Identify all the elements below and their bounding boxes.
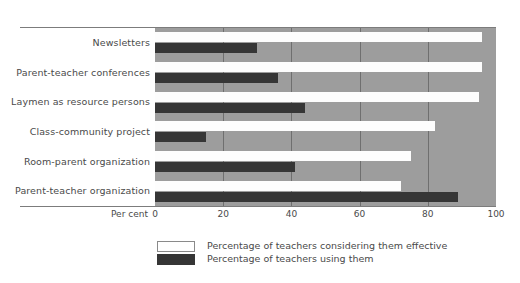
bar — [155, 32, 482, 42]
category-label: Parent-teacher conferences — [0, 67, 150, 78]
legend-label: Percentage of teachers considering them … — [207, 240, 447, 251]
x-axis-label: Per cent — [111, 209, 148, 219]
gridline-40 — [291, 28, 292, 206]
bar — [155, 181, 401, 191]
bar — [155, 121, 435, 131]
bar — [155, 43, 257, 53]
bar — [155, 192, 458, 202]
x-tick-label: 40 — [286, 209, 297, 219]
category-label: Laymen as resource persons — [0, 96, 150, 107]
bar-chart-figure: NewslettersParent-teacher conferencesLay… — [0, 0, 520, 283]
category-label: Class-community project — [0, 126, 150, 137]
bar — [155, 151, 411, 161]
bar — [155, 162, 295, 172]
category-axis-labels: NewslettersParent-teacher conferencesLay… — [0, 28, 150, 206]
gridline-60 — [360, 28, 361, 206]
bar — [155, 132, 206, 142]
plot-area — [155, 28, 496, 206]
bar — [155, 103, 305, 113]
x-tick-label: 100 — [487, 209, 504, 219]
gridline-20 — [223, 28, 224, 206]
bar — [155, 92, 479, 102]
x-tick-label: 60 — [354, 209, 365, 219]
x-tick-label: 20 — [217, 209, 228, 219]
bar — [155, 62, 482, 72]
legend-label: Percentage of teachers using them — [207, 253, 374, 264]
gridline-80 — [428, 28, 429, 206]
legend-swatch — [157, 254, 195, 265]
legend-swatch — [157, 241, 195, 252]
bar — [155, 73, 278, 83]
category-label: Newsletters — [0, 37, 150, 48]
x-tick-label: 0 — [152, 209, 158, 219]
x-tick-label: 80 — [422, 209, 433, 219]
axis-baseline — [20, 206, 496, 207]
category-label: Room-parent organization — [0, 156, 150, 167]
x-axis-ticks: 020406080100 — [0, 209, 520, 223]
category-label: Parent-teacher organization — [0, 185, 150, 196]
